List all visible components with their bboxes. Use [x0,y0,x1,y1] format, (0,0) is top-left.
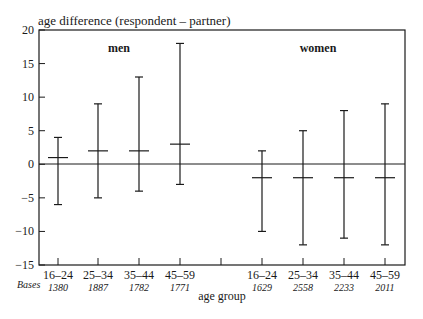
error-bars [48,43,395,244]
y-tick-label: 5 [28,124,34,138]
x-tick-label: 16–24 [247,268,277,282]
base-count: 1887 [88,282,109,293]
base-count: 1771 [170,282,190,293]
y-tick-label: 20 [22,23,34,37]
base-count: 1629 [252,282,272,293]
y-tick-label: 15 [22,57,34,71]
base-count: 2011 [375,282,394,293]
base-count: 1380 [48,282,68,293]
bases-label: Bases [17,279,40,290]
y-tick-label: −10 [15,224,34,238]
x-tick-label: 16–24 [43,268,73,282]
x-axis-label: age group [198,289,246,303]
base-count: 2233 [334,282,354,293]
x-tick-label: 35–44 [124,268,154,282]
base-count: 1782 [129,282,149,293]
y-tick-label: −5 [21,191,34,205]
plot-frame [39,30,405,265]
x-tick-label: 35–44 [329,268,359,282]
y-tick-label: 10 [22,90,34,104]
x-tick-label: 25–34 [288,268,318,282]
y-tick-label: −15 [15,258,34,272]
group-label-men: men [108,41,130,55]
x-tick-label: 45–59 [165,268,195,282]
group-label-women: women [300,41,337,55]
x-axis: 16–24138025–34188735–44178245–59177116–2… [43,258,400,293]
x-tick-label: 45–59 [370,268,400,282]
error-bar-chart: age difference (respondent – partner) 20… [0,0,423,319]
x-tick-label: 25–34 [83,268,113,282]
y-axis-label: age difference (respondent – partner) [38,13,231,28]
y-axis: 20151050−5−10−15 [15,23,45,272]
y-tick-label: 0 [28,157,34,171]
base-count: 2558 [293,282,313,293]
